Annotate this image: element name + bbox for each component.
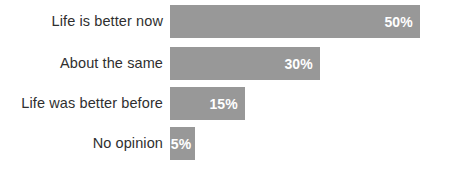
bar-row: No opinion 5% <box>0 127 195 160</box>
horizontal-bar-chart: Life is better now 50% About the same 30… <box>0 0 451 172</box>
category-label: About the same <box>0 56 170 71</box>
bar-fill: 5% <box>170 127 195 160</box>
value-label: 30% <box>284 57 313 71</box>
category-label: Life is better now <box>0 14 170 29</box>
value-label: 50% <box>384 15 413 29</box>
bar-track: 30% <box>170 47 320 80</box>
value-label: 5% <box>171 137 192 151</box>
bar-track: 5% <box>170 127 195 160</box>
bar-fill: 15% <box>170 87 245 120</box>
bar-fill: 50% <box>170 5 420 38</box>
bar-row: About the same 30% <box>0 47 320 80</box>
value-label: 15% <box>209 97 238 111</box>
category-label: Life was better before <box>0 96 170 111</box>
bar-fill: 30% <box>170 47 320 80</box>
bar-row: Life is better now 50% <box>0 5 420 38</box>
bar-track: 15% <box>170 87 245 120</box>
category-label: No opinion <box>0 136 170 151</box>
bar-track: 50% <box>170 5 420 38</box>
bar-row: Life was better before 15% <box>0 87 245 120</box>
